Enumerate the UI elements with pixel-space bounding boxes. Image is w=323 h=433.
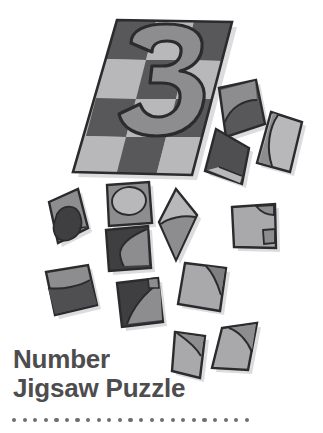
divider-dot [160, 418, 164, 422]
piece-center-diamond [159, 189, 201, 264]
divider-dot [75, 418, 79, 422]
piece-left-two-tone [46, 265, 101, 319]
divider-dot [245, 418, 249, 422]
divider-dot [65, 418, 69, 422]
piece-mid-dark-diamond [205, 129, 253, 188]
piece-lower-dark-curve [117, 278, 167, 331]
divider-dot [107, 418, 111, 422]
divider-dot [23, 418, 27, 422]
piece-mid-dark-window [106, 226, 155, 275]
divider-dot [118, 418, 122, 422]
board-checker-pattern [73, 20, 232, 177]
divider-dot [97, 418, 101, 422]
puzzle-board [73, 20, 232, 177]
divider-dot [139, 418, 143, 422]
divider-dot [86, 418, 90, 422]
piece-lower-light-corner [178, 263, 230, 315]
divider-dot [202, 418, 206, 422]
title-line-2: Jigsaw Puzzle [13, 374, 313, 403]
divider-dot [33, 418, 37, 422]
piece-right-light-notch [232, 204, 280, 252]
divider-dot [234, 418, 238, 422]
divider-dot [181, 418, 185, 422]
divider-dot [150, 418, 154, 422]
page-title: Number Jigsaw Puzzle [13, 345, 313, 403]
divider-dot [54, 418, 58, 422]
illustration-page: Number Jigsaw Puzzle [0, 0, 323, 433]
piece-top-right-dark-curve [219, 80, 269, 141]
divider-dot [128, 418, 132, 422]
divider-dot [171, 418, 175, 422]
divider-dot [12, 418, 16, 422]
divider-dot [213, 418, 217, 422]
piece-upper-mid-oval [107, 182, 156, 230]
title-line-1: Number [13, 345, 313, 374]
piece-left-dark-blob [49, 189, 92, 247]
dot-divider [12, 418, 249, 422]
divider-dot [192, 418, 196, 422]
divider-dot [44, 418, 48, 422]
divider-dot [224, 418, 228, 422]
